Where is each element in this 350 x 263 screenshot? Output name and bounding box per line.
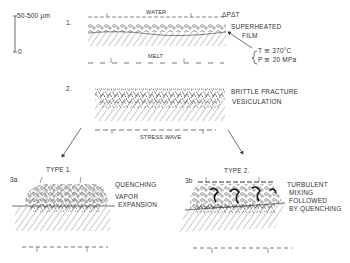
type2-graphic [180, 177, 292, 253]
stage1-number: 1. [66, 19, 72, 26]
type2-title: TYPE 2. [224, 167, 250, 174]
followed-label: FOLLOWED [289, 197, 327, 204]
type1-title: TYPE 1. [46, 166, 72, 173]
scale-top-label: 50-500 µm [17, 12, 50, 19]
melt-label: MELT [148, 53, 163, 59]
temperature-label: T ≅ 370°C [258, 47, 291, 54]
delta-p-delta-t-label: ΔPΔT [222, 11, 240, 18]
type1-id: 3a [10, 176, 18, 183]
stage1-graphic [88, 13, 257, 64]
film-label: FILM [242, 32, 258, 39]
water-label: WATER [146, 9, 166, 15]
pressure-label: P ≅ 20 MPa [258, 56, 296, 63]
diagram-graphics [0, 0, 350, 263]
stage2-number: 2. [66, 85, 72, 92]
type1-graphic [12, 177, 115, 252]
type2-id: 3b [185, 177, 193, 184]
scale-bottom-label: 0 [18, 48, 22, 55]
vesiculation-label: VESICULATION [232, 98, 282, 105]
by-quenching-label: BY QUENCHING [289, 205, 341, 212]
stress-wave-label: STRESS WAVE [140, 134, 181, 140]
expansion-label: EXPANSION [118, 201, 157, 208]
scale-bar [13, 16, 17, 52]
vapor-label: VAPOR [115, 193, 138, 200]
mixing-label: MIXING [289, 189, 313, 196]
stage2-graphic [95, 89, 225, 134]
quenching-label: QUENCHING [115, 181, 157, 188]
brittle-fracture-label: BRITTLE FRACTURE [231, 88, 298, 95]
superheated-label: SUPERHEATED [231, 23, 281, 30]
turbulent-label: TURBULENT [287, 181, 328, 188]
